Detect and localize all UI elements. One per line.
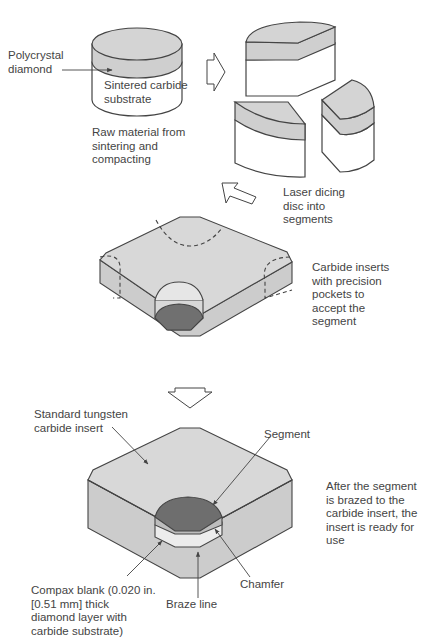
pocketed-insert: [100, 217, 292, 336]
label-sintered-substrate: Sintered carbide substrate: [104, 79, 188, 106]
label-chamfer: Chamfer: [240, 578, 284, 592]
process-arrow-down-left-icon: [222, 183, 256, 204]
label-standard-insert: Standard tungsten carbide insert: [34, 408, 128, 435]
label-compax-blank: Compax blank (0.020 in. [0.51 mm] thick …: [31, 584, 156, 638]
label-carbide-inserts: Carbide inserts with precision pockets t…: [312, 261, 389, 329]
label-braze-line: Braze line: [166, 598, 217, 612]
label-polycrystal-diamond: Polycrystal diamond: [8, 49, 64, 76]
label-segment: Segment: [264, 428, 310, 442]
label-raw-material: Raw material from sintering and compacti…: [92, 126, 185, 167]
process-arrow-right-icon: [207, 53, 225, 91]
diced-segments: [235, 22, 374, 177]
label-laser-dicing: Laser dicing disc into segments: [283, 186, 345, 227]
label-after-brazed: After the segment is brazed to the carbi…: [326, 480, 417, 548]
process-arrow-down-icon: [168, 388, 212, 408]
finished-insert: [88, 428, 292, 578]
